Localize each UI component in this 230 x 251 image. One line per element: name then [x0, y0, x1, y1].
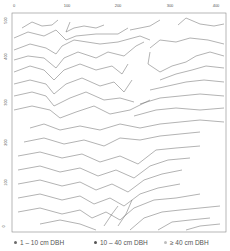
legend-dot-icon: [14, 241, 17, 244]
legend-label: 10 – 40 cm DBH: [100, 239, 148, 246]
legend: 1 – 10 cm DBH 10 – 40 cm DBH ≥ 40 cm DBH: [0, 238, 230, 250]
legend-item-small: 1 – 10 cm DBH: [14, 239, 64, 246]
legend-label: ≥ 40 cm DBH: [170, 239, 209, 246]
legend-item-medium: 10 – 40 cm DBH: [94, 239, 148, 246]
legend-label: 1 – 10 cm DBH: [20, 239, 64, 246]
legend-item-large: ≥ 40 cm DBH: [164, 239, 209, 246]
legend-dot-icon: [164, 241, 167, 244]
contour-map: 0 100 200 300 400 500 400 300 200 100 0: [0, 0, 230, 236]
contour-lines: [0, 0, 230, 236]
legend-dot-icon: [94, 241, 97, 244]
